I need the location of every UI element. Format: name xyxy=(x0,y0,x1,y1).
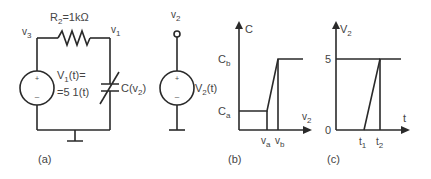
ground-icon xyxy=(67,130,83,141)
resistor-label: R2=1kΩ xyxy=(50,11,89,26)
graph-b-x-arrow-icon xyxy=(303,126,312,134)
graph-b-ca-label: Ca xyxy=(218,105,231,120)
source-v1-value: =5 1(t) xyxy=(57,86,89,98)
v1-plus: + xyxy=(35,75,39,82)
graph-c-zero-label: 0 xyxy=(325,124,331,136)
graph-b-va-label: va xyxy=(261,135,271,149)
v2-plus: + xyxy=(175,75,179,82)
graph-c-y-arrow-icon xyxy=(332,21,340,29)
terminal-v2-label: v2 xyxy=(171,9,181,23)
resistor-symbol xyxy=(58,31,90,45)
graph-b-cb-label: Cb xyxy=(218,53,231,68)
graph-b-ylabel: C xyxy=(245,23,253,35)
graph-b-xlabel: v2 xyxy=(302,111,312,125)
graph-c-five-label: 5 xyxy=(325,53,331,65)
graph-c-t2-label: t2 xyxy=(376,136,384,150)
source-v2-label: V2(t) xyxy=(195,82,217,97)
graph-c-xlabel: t xyxy=(403,112,406,124)
graph-c: V2 5 0 t t1 t2 (c) xyxy=(325,21,410,165)
graph-c-curve xyxy=(364,59,401,130)
graph-c-t1-label: t1 xyxy=(359,136,367,150)
terminal-node-icon xyxy=(174,31,180,37)
node-v1-label: v1 xyxy=(111,24,121,38)
graph-c-x-arrow-icon xyxy=(401,126,410,134)
graph-b: C Cb Ca v2 va vb (b) xyxy=(218,21,312,165)
graph-b-vb-label: vb xyxy=(275,135,285,149)
graph-b-y-arrow-icon xyxy=(235,21,243,29)
v2-minus: – xyxy=(175,92,180,101)
diagram-canvas: + – R2=1kΩ v3 v1 V1(t)= =5 1(t) C(v2) (a… xyxy=(0,0,431,179)
node-v3-label: v3 xyxy=(22,26,32,40)
caption-c: (c) xyxy=(327,153,340,165)
source-v2-circuit: v2 + – V2(t) xyxy=(160,9,217,130)
circuit-a: + – R2=1kΩ v3 v1 V1(t)= =5 1(t) C(v2) (a… xyxy=(20,11,146,165)
capacitor-label: C(v2) xyxy=(121,82,146,97)
caption-a: (a) xyxy=(38,153,51,165)
caption-b: (b) xyxy=(228,153,241,165)
v1-minus: – xyxy=(35,92,40,101)
source-v1-label: V1(t)= xyxy=(57,69,86,84)
graph-c-ylabel: V2 xyxy=(340,23,352,38)
graph-b-curve xyxy=(239,59,303,111)
